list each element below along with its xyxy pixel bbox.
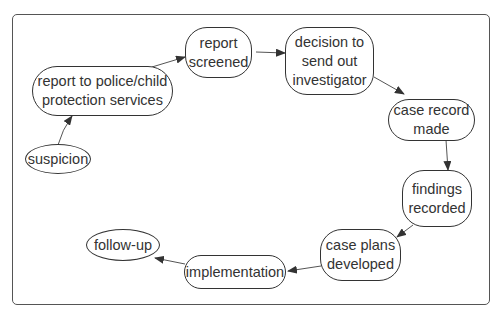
node-label: follow-up: [94, 236, 152, 255]
node-label: case record made: [394, 101, 470, 139]
node-report-screened: report screened: [185, 27, 252, 78]
edge-findings-caseplans: [397, 225, 413, 237]
node-label: case plans developed: [326, 236, 395, 274]
edge-report-screened: [152, 57, 185, 67]
node-label: report screened: [189, 34, 249, 72]
node-report-to-police: report to police/child protection servic…: [32, 66, 173, 116]
edge-caserecord-findings: [446, 140, 448, 170]
node-implementation: implementation: [184, 255, 286, 289]
node-follow-up: follow-up: [86, 229, 160, 261]
node-case-plans: case plans developed: [320, 229, 401, 281]
edge-caseplans-implementation: [288, 266, 321, 271]
node-suspicion: suspicion: [25, 144, 91, 174]
node-label: implementation: [186, 263, 284, 282]
node-label: report to police/child protection servic…: [38, 72, 168, 110]
node-decision: decision to send out investigator: [285, 27, 374, 95]
node-label: decision to send out investigator: [292, 33, 366, 90]
edge-suspicion-report: [58, 116, 72, 145]
edge-decision-caserecord: [374, 77, 404, 94]
node-case-record: case record made: [388, 99, 475, 141]
edge-implementation-followup: [155, 258, 185, 264]
node-label: suspicion: [28, 150, 88, 169]
node-findings: findings recorded: [402, 170, 472, 227]
edge-screened-decision: [256, 52, 285, 53]
node-label: findings recorded: [408, 180, 465, 218]
